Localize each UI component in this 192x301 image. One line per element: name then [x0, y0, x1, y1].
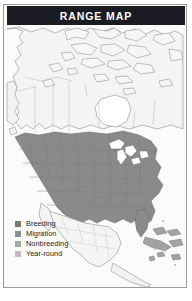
- legend-swatch-migration: [15, 231, 21, 237]
- page-title: RANGE MAP: [60, 10, 132, 22]
- legend-label-nonbreeding: Nonbreeding: [26, 239, 68, 249]
- legend-swatch-nonbreeding: [15, 241, 21, 247]
- legend-label-year-round: Year-round: [26, 249, 62, 259]
- legend-item-breeding: Breeding: [15, 219, 125, 229]
- legend-label-migration: Migration: [26, 229, 56, 239]
- map-legend: Breeding Migration Nonbreeding Year-roun…: [15, 219, 125, 259]
- range-map-card: RANGE MAP: [3, 4, 187, 288]
- legend-swatch-breeding: [15, 221, 21, 227]
- title-bar: RANGE MAP: [7, 6, 185, 25]
- legend-swatch-year-round: [15, 251, 21, 257]
- legend-item-nonbreeding: Nonbreeding: [15, 239, 125, 249]
- legend-item-migration: Migration: [15, 229, 125, 239]
- legend-item-year-round: Year-round: [15, 249, 125, 259]
- legend-label-breeding: Breeding: [26, 219, 56, 229]
